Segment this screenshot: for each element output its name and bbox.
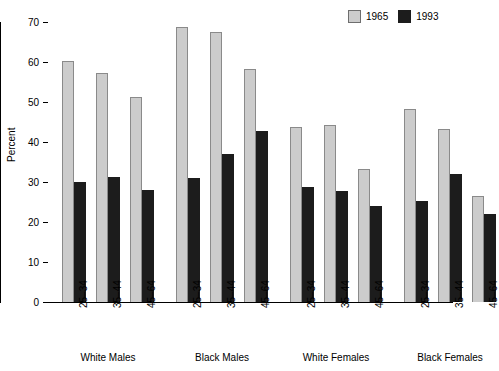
bar-1965-white-males-45–64 [130, 97, 142, 302]
y-axis-tick: 40 [43, 142, 48, 143]
bar-1965-white-females-45–64 [358, 169, 370, 302]
plot-area: 010203040506070 [48, 22, 453, 302]
x-axis-age-label: 25–34 [306, 280, 317, 308]
y-axis-tick: 50 [43, 102, 48, 103]
y-axis-tick-label: 30 [28, 177, 39, 188]
y-axis-tick-label: 60 [28, 57, 39, 68]
y-axis-tick-label: 0 [33, 297, 39, 308]
y-axis-title: Percent [6, 128, 17, 162]
x-axis-group-label: White Males [80, 352, 135, 363]
x-axis-age-label: 45–64 [260, 280, 271, 308]
bar-1993-black-males-45–64 [256, 131, 268, 302]
y-axis-tick-label: 10 [28, 257, 39, 268]
x-axis-line [48, 302, 453, 303]
y-axis-tick-label: 40 [28, 137, 39, 148]
bar-1965-black-males-45–64 [244, 69, 256, 302]
x-axis-age-label: 25–34 [78, 280, 89, 308]
bar-1965-black-males-25–34 [176, 27, 188, 302]
x-axis-age-label: 25–34 [420, 280, 431, 308]
y-axis-line [0, 22, 1, 303]
x-axis-age-label: 35–44 [112, 280, 123, 308]
y-axis-tick-label: 70 [28, 17, 39, 28]
bar-1965-black-females-45–64 [472, 196, 484, 302]
x-axis-group-label: White Females [303, 352, 370, 363]
x-axis-age-label: 35–44 [454, 280, 465, 308]
bar-1965-white-females-25–34 [290, 127, 302, 302]
y-axis-tick-label: 50 [28, 97, 39, 108]
x-axis-age-label: 25–34 [192, 280, 203, 308]
x-axis-age-label: 35–44 [226, 280, 237, 308]
y-axis-tick: 60 [43, 62, 48, 63]
bar-1965-white-males-35–44 [96, 73, 108, 302]
y-axis-tick: 10 [43, 262, 48, 263]
x-axis-age-label: 45–64 [374, 280, 385, 308]
bar-1965-white-males-25–34 [62, 61, 74, 302]
x-axis-group-label: Black Males [195, 352, 249, 363]
x-axis-age-label: 45–64 [146, 280, 157, 308]
x-axis-age-label: 45–64 [488, 280, 499, 308]
legend-label-1965: 1965 [366, 12, 388, 22]
bar-1965-black-males-35–44 [210, 32, 222, 302]
y-axis-tick: 20 [43, 222, 48, 223]
y-axis-tick: 70 [43, 22, 48, 23]
legend-label-1993: 1993 [416, 12, 438, 22]
y-axis-tick: 30 [43, 182, 48, 183]
x-axis-group-label: Black Females [417, 352, 483, 363]
bar-1965-black-females-35–44 [438, 129, 450, 302]
y-axis-tick-label: 20 [28, 217, 39, 228]
y-axis-tick: 0 [43, 302, 48, 303]
bar-1965-white-females-35–44 [324, 125, 336, 302]
bar-1965-black-females-25–34 [404, 109, 416, 302]
x-axis-age-label: 35–44 [340, 280, 351, 308]
